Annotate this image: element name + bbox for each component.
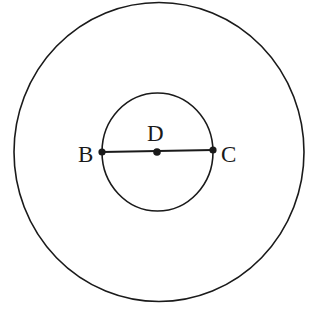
diagram-canvas: B D C [0, 0, 313, 320]
label-b: B [78, 142, 93, 167]
diagram-svg: B D C [0, 0, 313, 320]
point-b [98, 148, 105, 155]
point-c [209, 146, 216, 153]
label-d: D [147, 121, 164, 146]
label-c: C [221, 142, 236, 167]
point-d [153, 148, 161, 156]
